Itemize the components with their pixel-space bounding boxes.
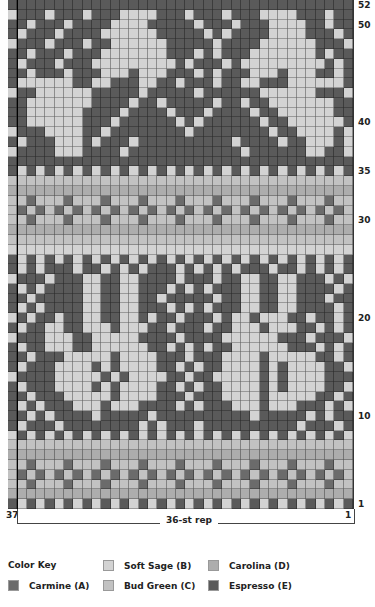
chart-cell: [55, 59, 64, 69]
chart-cell: [278, 245, 287, 255]
chart-cell: [194, 127, 203, 137]
chart-cell: [278, 0, 287, 10]
chart-cell: [45, 206, 54, 216]
chart-cell: [288, 186, 297, 196]
chart-cell: [101, 176, 110, 186]
chart-cell: [64, 362, 73, 372]
chart-cell: [194, 117, 203, 127]
chart-cell: [297, 421, 306, 431]
chart-cell: [101, 39, 110, 49]
chart-cell: [45, 470, 54, 480]
chart-cell: [101, 206, 110, 216]
chart-cell: [111, 69, 120, 79]
chart-cell: [278, 196, 287, 206]
chart-cell: [36, 166, 45, 176]
chart-cell: [176, 431, 185, 441]
chart-cell: [260, 352, 269, 362]
chart-cell: [167, 117, 176, 127]
chart-cell: [222, 127, 231, 137]
chart-cell: [306, 343, 315, 353]
chart-cell: [17, 352, 26, 362]
key-item-bud-green: Bud Green (C): [103, 580, 195, 591]
chart-cell: [64, 137, 73, 147]
chart-cell: [176, 284, 185, 294]
chart-cell: [167, 470, 176, 480]
chart-cell: [139, 450, 148, 460]
chart-cell: [297, 98, 306, 108]
row-number-label: 35: [358, 166, 371, 176]
chart-cell: [222, 362, 231, 372]
chart-cell: [27, 166, 36, 176]
chart-cell: [204, 284, 213, 294]
chart-cell: [194, 39, 203, 49]
chart-cell: [241, 431, 250, 441]
chart-cell: [260, 401, 269, 411]
chart-cell: [241, 372, 250, 382]
chart-cell: [222, 460, 231, 470]
chart-cell: [73, 235, 82, 245]
chart-cell: [92, 29, 101, 39]
chart-cell: [278, 274, 287, 284]
chart-cell: [148, 127, 157, 137]
chart-cell: [120, 372, 129, 382]
chart-cell: [185, 147, 194, 157]
chart-cell: [139, 147, 148, 157]
chart-cell: [111, 98, 120, 108]
chart-cell: [73, 137, 82, 147]
chart-cell: [194, 186, 203, 196]
chart-cell: [120, 196, 129, 206]
chart-cell: [222, 20, 231, 30]
chart-cell: [167, 69, 176, 79]
chart-cell: [36, 10, 45, 20]
chart-cell: [278, 323, 287, 333]
chart-cell: [73, 323, 82, 333]
chart-cell: [167, 411, 176, 421]
chart-cell: [316, 49, 325, 59]
chart-cell: [27, 303, 36, 313]
chart-cell: [185, 421, 194, 431]
key-label: Soft Sage (B): [124, 561, 191, 571]
chart-cell: [297, 294, 306, 304]
chart-cell: [120, 78, 129, 88]
chart-cell: [55, 206, 64, 216]
chart-cell: [288, 0, 297, 10]
chart-cell: [64, 117, 73, 127]
chart-cell: [55, 323, 64, 333]
chart-cell: [83, 343, 92, 353]
chart-cell: [316, 499, 325, 509]
chart-cell: [27, 421, 36, 431]
chart-cell: [269, 470, 278, 480]
chart-cell: [73, 215, 82, 225]
chart-cell: [73, 460, 82, 470]
chart-cell: [73, 401, 82, 411]
chart-cell: [344, 186, 353, 196]
chart-cell: [148, 147, 157, 157]
chart-cell: [250, 69, 259, 79]
chart-cell: [344, 0, 353, 10]
chart-cell: [27, 108, 36, 118]
chart-cell: [55, 392, 64, 402]
chart-cell: [204, 440, 213, 450]
chart-cell: [17, 117, 26, 127]
chart-cell: [325, 147, 334, 157]
chart-cell: [316, 186, 325, 196]
chart-cell: [269, 20, 278, 30]
chart-cell: [278, 421, 287, 431]
chart-cell: [17, 29, 26, 39]
chart-cell: [27, 127, 36, 137]
chart-cell: [278, 29, 287, 39]
chart-cell: [306, 499, 315, 509]
chart-cell: [8, 264, 17, 274]
chart-cell: [27, 372, 36, 382]
chart-cell: [101, 362, 110, 372]
chart-cell: [157, 127, 166, 137]
chart-cell: [45, 382, 54, 392]
chart-cell: [306, 421, 315, 431]
chart-cell: [344, 88, 353, 98]
chart-cell: [334, 382, 343, 392]
chart-cell: [157, 421, 166, 431]
chart-cell: [334, 294, 343, 304]
chart-cell: [185, 69, 194, 79]
chart-cell: [176, 470, 185, 480]
chart-cell: [213, 196, 222, 206]
